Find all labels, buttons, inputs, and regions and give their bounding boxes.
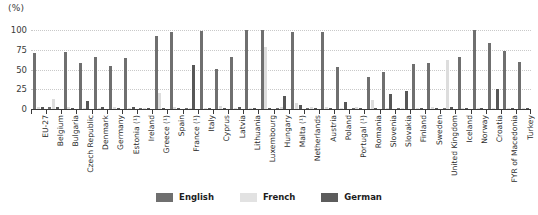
x-axis-tick [334, 110, 349, 114]
legend-swatch-icon [240, 193, 257, 202]
bar-english [64, 52, 67, 109]
bar-group [31, 30, 46, 109]
bar-group [167, 30, 182, 109]
x-axis-label-cell: Latvia [228, 115, 243, 187]
x-axis-tick [349, 110, 364, 114]
bar-french [264, 47, 267, 109]
bar-english [79, 63, 82, 109]
bar-group [213, 30, 228, 109]
bar-german [283, 96, 286, 109]
bar-group [46, 30, 61, 109]
bar-english [291, 32, 294, 109]
x-axis-tick [440, 110, 455, 114]
x-axis-tick [46, 110, 61, 114]
bar-english [458, 57, 461, 109]
x-axis-label-cell: United Kingdom [440, 115, 455, 187]
bar-group [152, 30, 167, 109]
x-axis-tick [183, 110, 198, 114]
x-axis-label-cell: Norway [471, 115, 486, 187]
x-axis-label-cell: Turkey [516, 115, 531, 187]
x-axis-tick [137, 110, 152, 114]
x-axis-label-cell: Estonia (¹) [122, 115, 137, 187]
x-axis-tick [380, 110, 395, 114]
x-axis-tick [198, 110, 213, 114]
x-axis-tick [471, 110, 486, 114]
x-axis-labels: EU-27BelgiumBulgariaCzech RepublicDenmar… [31, 115, 531, 187]
x-axis-tick [274, 110, 289, 114]
plot-area: 0255075100 [31, 30, 531, 109]
chart-root: (%) 0255075100 EU-27BelgiumBulgariaCzech… [0, 0, 538, 215]
legend-item-french[interactable]: French [240, 192, 295, 202]
legend-item-german[interactable]: German [321, 192, 382, 202]
x-axis-label-cell: Spain [167, 115, 182, 187]
bar-english [412, 64, 415, 109]
x-axis-label-cell: Romania [364, 115, 379, 187]
legend-label: French [263, 192, 295, 202]
bar-group [425, 30, 440, 109]
x-axis-label-cell: Belgium [46, 115, 61, 187]
x-axis-label-cell: Poland [334, 115, 349, 187]
bar-groups [31, 30, 531, 109]
bar-english [518, 62, 521, 109]
bar-group [289, 30, 304, 109]
x-axis-label-cell: Sweden [425, 115, 440, 187]
bar-english [261, 30, 264, 109]
x-axis-label-cell: Denmark [92, 115, 107, 187]
bar-english [33, 53, 36, 109]
x-axis-tick [395, 110, 410, 114]
bar-group [274, 30, 289, 109]
x-axis-tick [258, 110, 273, 114]
bar-group [92, 30, 107, 109]
x-axis-label-cell: Italy [198, 115, 213, 187]
bar-group [61, 30, 76, 109]
chart-legend: EnglishFrenchGerman [0, 192, 538, 202]
x-axis-tick [61, 110, 76, 114]
x-axis-label-cell: Slovenia [380, 115, 395, 187]
x-axis-label-cell: Greece (¹) [152, 115, 167, 187]
x-axis-tick [213, 110, 228, 114]
bar-group [122, 30, 137, 109]
x-axis-label-cell: Lithuania [243, 115, 258, 187]
bar-english [170, 32, 173, 109]
bar-group [243, 30, 258, 109]
y-axis-tick-label: 25 [2, 85, 27, 94]
bar-english [367, 77, 370, 109]
bar-english [245, 30, 248, 109]
legend-label: German [344, 192, 382, 202]
bar-english [321, 32, 324, 109]
bar-english [427, 63, 430, 109]
x-axis-label-cell: FYR of Macedonia [501, 115, 516, 187]
bar-german [389, 94, 392, 109]
legend-item-english[interactable]: English [156, 192, 214, 202]
x-axis-tick [289, 110, 304, 114]
bar-english [94, 57, 97, 109]
x-axis-label-cell: Czech Republic [76, 115, 91, 187]
y-axis-tick-label: 100 [2, 26, 27, 35]
bar-group [183, 30, 198, 109]
bar-group [486, 30, 501, 109]
bar-group [304, 30, 319, 109]
x-axis-tick [31, 110, 46, 114]
bar-english [155, 36, 158, 109]
bar-english [503, 51, 506, 109]
y-axis-unit-label: (%) [8, 3, 24, 13]
bar-group [228, 30, 243, 109]
x-axis-tick [152, 110, 167, 114]
bar-english [230, 57, 233, 109]
x-axis-tick [516, 110, 531, 114]
x-axis-label-cell: Iceland [455, 115, 470, 187]
x-axis-label-cell: Slovakia [395, 115, 410, 187]
y-axis-tick-label: 50 [2, 66, 27, 75]
x-axis-tick [455, 110, 470, 114]
bar-french [446, 60, 449, 109]
x-axis-label-cell: Malta (¹) [289, 115, 304, 187]
x-axis-label-cell: EU-27 [31, 115, 46, 187]
x-axis-tick-label: Turkey [527, 115, 535, 140]
bar-group [334, 30, 349, 109]
legend-swatch-icon [156, 193, 173, 202]
legend-swatch-icon [321, 193, 338, 202]
bar-german [496, 89, 499, 109]
x-axis-label-cell: France (¹) [183, 115, 198, 187]
x-axis-label-cell: Germany [107, 115, 122, 187]
x-axis-tick [92, 110, 107, 114]
